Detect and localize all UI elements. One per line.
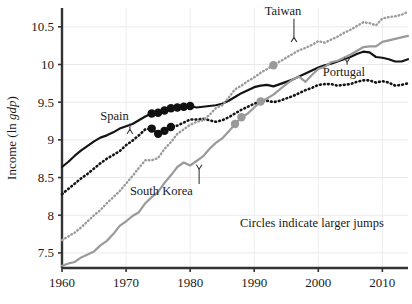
annotation-label-portugal: Portugal: [323, 65, 366, 79]
x-tick-label-2010: 2010: [369, 275, 395, 290]
y-label-prefix: Income (ln: [4, 120, 19, 180]
y-tick-label-8: 8: [48, 208, 55, 223]
chart-container: 7.588.599.51010.5 1960197019801990200020…: [0, 0, 412, 304]
jump-marker-portugal: [167, 123, 175, 131]
jump-marker-south-korea: [256, 97, 264, 105]
jump-marker-spain: [186, 102, 194, 110]
jump-marker-south-korea: [231, 120, 239, 128]
x-tick-label-1970: 1970: [113, 275, 139, 290]
y-label-italic: gdp: [4, 100, 19, 120]
x-tick-label-2000: 2000: [305, 275, 331, 290]
income-line-chart: 7.588.599.51010.5 1960197019801990200020…: [0, 0, 412, 304]
y-label-suffix: ): [4, 96, 19, 100]
annotation-label-taiwan: Taiwan: [265, 4, 302, 18]
y-tick-label-7.5: 7.5: [38, 245, 54, 260]
x-tick-label-1990: 1990: [241, 275, 267, 290]
y-tick-label-8.5: 8.5: [38, 170, 54, 185]
annotation-label-south-korea: South Korea: [130, 184, 193, 198]
jump-marker-taiwan: [269, 61, 277, 69]
jump-marker-south-korea: [237, 113, 245, 121]
y-axis-label: Income (ln gdp): [4, 96, 19, 180]
y-tick-label-10.5: 10.5: [31, 19, 54, 34]
chart-caption: Circles indicate larger jumps: [240, 216, 384, 230]
y-tick-label-9: 9: [48, 132, 55, 147]
y-tick-label-9.5: 9.5: [38, 95, 54, 110]
annotation-label-spain: Spain: [100, 109, 129, 123]
x-tick-label-1960: 1960: [49, 275, 75, 290]
y-tick-label-10: 10: [41, 57, 54, 72]
x-tick-label-1980: 1980: [177, 275, 203, 290]
